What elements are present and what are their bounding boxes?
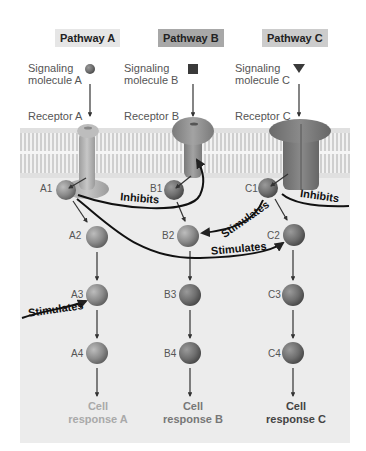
edge-label-stimulates-2: Stimulates	[210, 240, 266, 257]
node-c3-icon	[282, 284, 304, 306]
signal-molecule-a-icon	[85, 64, 95, 74]
node-c2-icon	[283, 224, 305, 246]
receptor-b-icon	[172, 117, 214, 178]
node-a3-icon	[86, 284, 108, 306]
edge-label-inhibits-1: Inhibits	[120, 190, 160, 205]
node-b4-icon	[179, 342, 201, 364]
node-a2-icon	[86, 226, 108, 248]
signal-molecule-b-icon	[188, 64, 198, 74]
edge-label-stimulates-5: Stimulates	[27, 299, 84, 319]
node-b3-icon	[179, 284, 201, 306]
node-a1-icon	[56, 180, 76, 200]
signal-molecule-c-icon	[293, 64, 305, 73]
receptor-c-icon	[269, 119, 331, 190]
node-b2-icon	[177, 225, 199, 247]
edge-label-inhibits-4: Inhibits	[299, 187, 339, 204]
node-a4-icon	[86, 342, 108, 364]
diagram-graphics: Inhibits Stimulates Stimulates Inhibits …	[0, 0, 366, 451]
node-c4-icon	[282, 342, 304, 364]
node-c1-icon	[258, 178, 278, 198]
node-b1-icon	[164, 180, 184, 200]
edge-label-stimulates-3: Stimulates	[219, 198, 271, 240]
